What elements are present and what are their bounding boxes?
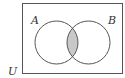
venn-diagram: A B U xyxy=(0,0,125,78)
set-a-label: A xyxy=(30,14,39,27)
set-b-label: B xyxy=(107,14,116,27)
universe-label: U xyxy=(8,65,18,78)
